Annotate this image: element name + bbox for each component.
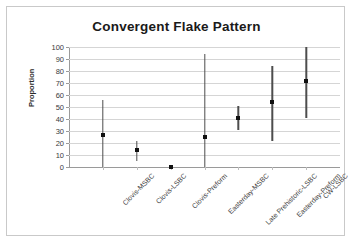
y-tick-mark [66, 143, 69, 144]
data-point-marker [270, 100, 274, 104]
chart-container: Convergent Flake Pattern Proportion 0102… [6, 6, 345, 236]
x-tick-mark [272, 167, 273, 170]
y-tick-label: 20 [56, 139, 64, 148]
x-tick-mark [238, 167, 239, 170]
y-tick-mark [66, 47, 69, 48]
x-tick-mark [306, 167, 307, 170]
y-tick-label: 30 [56, 127, 64, 136]
y-tick-mark [66, 131, 69, 132]
y-tick-label: 0 [60, 163, 64, 172]
data-point-marker [101, 133, 105, 137]
data-point-marker [203, 135, 207, 139]
x-axis-tick-label: Clovis-LSBC [154, 172, 187, 205]
y-tick-mark [66, 107, 69, 108]
x-axis-labels: Clovis-MSBCClovis-LSBCClovis-PreformEast… [69, 172, 340, 242]
x-tick-mark [205, 167, 206, 170]
y-tick-label: 40 [56, 115, 64, 124]
error-bar [204, 54, 205, 167]
y-tick-label: 10 [56, 151, 64, 160]
x-axis-tick-label: Clovis-MSBC [121, 172, 155, 206]
y-tick-mark [66, 155, 69, 156]
plot-area: 0102030405060708090100 [69, 47, 340, 167]
data-point-marker [236, 116, 240, 120]
x-tick-mark [137, 167, 138, 170]
data-point-marker [304, 79, 308, 83]
data-point-marker [169, 165, 173, 169]
y-tick-label: 80 [56, 67, 64, 76]
y-tick-label: 60 [56, 91, 64, 100]
chart-title: Convergent Flake Pattern [7, 19, 346, 34]
gridline [69, 47, 340, 48]
y-tick-label: 70 [56, 79, 64, 88]
y-axis-label: Proportion [27, 69, 36, 107]
x-axis-tick-label: Easterday-MSBC [226, 172, 269, 215]
y-tick-label: 100 [51, 43, 64, 52]
x-axis-tick-label: Easterday-Preform [295, 172, 341, 218]
x-axis-tick-label: Clovis-Preform [190, 172, 228, 210]
y-tick-label: 90 [56, 55, 64, 64]
y-tick-mark [66, 83, 69, 84]
y-tick-mark [66, 119, 69, 120]
data-point-marker [135, 148, 139, 152]
y-tick-label: 50 [56, 103, 64, 112]
y-tick-mark [66, 71, 69, 72]
x-tick-mark [103, 167, 104, 170]
y-tick-mark [66, 167, 69, 168]
y-tick-mark [66, 59, 69, 60]
y-tick-mark [66, 95, 69, 96]
